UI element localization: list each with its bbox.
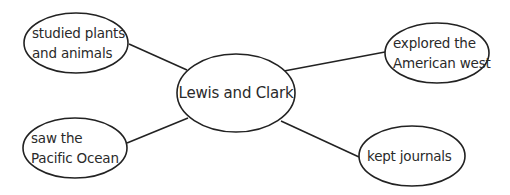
node-label-top-left: studied plants and animals	[32, 13, 124, 73]
center-node-text: Lewis and Clark	[178, 83, 293, 103]
node-text-line: and animals	[32, 43, 112, 63]
node-text-line: explored the	[393, 33, 476, 53]
node-text-line: studied plants	[32, 23, 125, 43]
node-text-line: Pacific Ocean	[31, 148, 119, 168]
node-text-line: kept journals	[367, 146, 452, 166]
center-node-label: Lewis and Clark	[177, 54, 295, 132]
node-label-bottom-right: kept journals	[367, 126, 461, 186]
node-label-top-right: explored the American west	[393, 23, 485, 83]
node-text-line: American west	[393, 53, 491, 73]
connector-line-top-right	[284, 52, 385, 71]
node-label-bottom-left: saw the Pacific Ocean	[31, 118, 123, 178]
node-text-line: saw the	[31, 128, 82, 148]
